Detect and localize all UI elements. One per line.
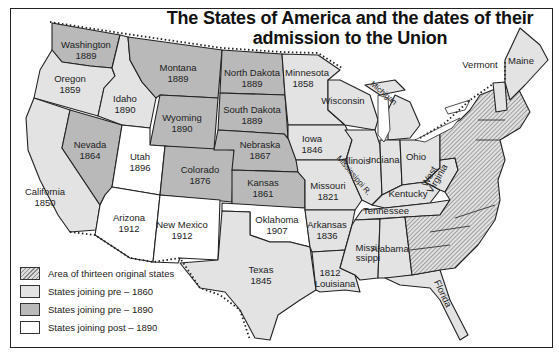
- svg-text:1889: 1889: [241, 115, 262, 126]
- svg-text:1861: 1861: [252, 188, 273, 199]
- svg-text:Iowa: Iowa: [302, 133, 323, 144]
- svg-text:New Mexico: New Mexico: [156, 219, 208, 230]
- svg-text:1890: 1890: [171, 123, 192, 134]
- svg-text:Oregon: Oregon: [54, 73, 86, 84]
- svg-text:1864: 1864: [79, 150, 100, 161]
- svg-text:Texas: Texas: [249, 264, 274, 275]
- white-swatch-icon: [20, 321, 40, 334]
- legend-item-pre1860: States joining pre – 1860: [20, 282, 174, 300]
- svg-text:1889: 1889: [241, 78, 262, 89]
- title-line-2: admission to the Union: [150, 28, 550, 48]
- svg-text:1821: 1821: [317, 191, 338, 202]
- svg-text:1850: 1850: [34, 197, 55, 208]
- svg-text:1907: 1907: [266, 225, 287, 236]
- svg-text:Indiana: Indiana: [368, 154, 400, 165]
- medium-swatch-icon: [20, 303, 40, 316]
- svg-text:1845: 1845: [250, 275, 271, 286]
- svg-text:Maine: Maine: [508, 55, 534, 66]
- svg-text:1867: 1867: [249, 150, 270, 161]
- svg-text:1836: 1836: [316, 230, 337, 241]
- svg-text:1912: 1912: [171, 230, 192, 241]
- title-line-1: The States of America and the dates of t…: [150, 8, 550, 28]
- svg-text:1889: 1889: [75, 50, 96, 61]
- svg-text:Wyoming: Wyoming: [162, 112, 202, 123]
- legend: Area of thirteen original states States …: [20, 264, 174, 336]
- svg-text:Utah: Utah: [130, 151, 150, 162]
- svg-text:Minnesota: Minnesota: [285, 67, 330, 78]
- svg-text:Idaho: Idaho: [113, 93, 137, 104]
- svg-text:Tennessee: Tennessee: [363, 205, 409, 216]
- svg-text:North Dakota: North Dakota: [224, 67, 281, 78]
- lake-ontario: [445, 100, 470, 114]
- svg-text:1889: 1889: [167, 73, 188, 84]
- svg-text:Arizona: Arizona: [113, 212, 146, 223]
- svg-text:1876: 1876: [189, 175, 210, 186]
- svg-text:Kentucky: Kentucky: [388, 188, 427, 199]
- legend-item-original: Area of thirteen original states: [20, 264, 174, 282]
- state-florida: [385, 270, 468, 340]
- svg-text:South Dakota: South Dakota: [223, 104, 281, 115]
- svg-text:Louisiana: Louisiana: [315, 278, 356, 289]
- hatched-swatch-icon: [20, 267, 40, 280]
- svg-text:1859: 1859: [59, 84, 80, 95]
- svg-text:Arkansas: Arkansas: [307, 219, 347, 230]
- map-title: The States of America and the dates of t…: [150, 8, 550, 48]
- svg-text:Nebraska: Nebraska: [240, 139, 281, 150]
- svg-text:1812: 1812: [319, 267, 340, 278]
- svg-text:Washington: Washington: [61, 39, 111, 50]
- svg-text:1912: 1912: [118, 223, 139, 234]
- legend-item-pre1890: States joining pre – 1890: [20, 300, 174, 318]
- svg-text:Kansas: Kansas: [247, 177, 279, 188]
- svg-text:1858: 1858: [292, 78, 313, 89]
- svg-text:Vermont: Vermont: [462, 59, 498, 70]
- svg-text:1890: 1890: [114, 104, 135, 115]
- svg-text:1896: 1896: [129, 162, 150, 173]
- svg-text:Missouri: Missouri: [310, 180, 345, 191]
- light-swatch-icon: [20, 285, 40, 298]
- svg-text:Nevada: Nevada: [74, 139, 107, 150]
- svg-text:Wisconsin: Wisconsin: [321, 95, 364, 106]
- svg-text:Oklahoma: Oklahoma: [255, 214, 299, 225]
- svg-text:Ohio: Ohio: [406, 151, 426, 162]
- svg-text:Colorado: Colorado: [181, 164, 220, 175]
- svg-text:Montana: Montana: [160, 62, 198, 73]
- state-vermont: [493, 82, 507, 112]
- svg-text:California: California: [25, 186, 66, 197]
- legend-item-post1890: States joining post – 1890: [20, 318, 174, 336]
- svg-text:1846: 1846: [301, 144, 322, 155]
- svg-text:Alabama: Alabama: [371, 243, 409, 254]
